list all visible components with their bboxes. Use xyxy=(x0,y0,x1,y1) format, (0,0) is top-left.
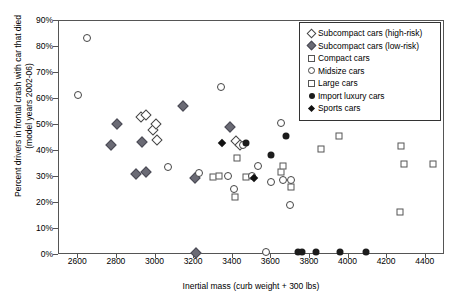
y-axis-tick-label: 90% xyxy=(0,15,53,25)
x-axis-tick-mark xyxy=(309,254,310,258)
y-axis-title: Percent drivers in frontal crash with ca… xyxy=(13,0,35,226)
legend-item[interactable]: Large cars xyxy=(305,77,435,90)
data-point xyxy=(250,174,258,182)
data-point xyxy=(83,34,91,42)
x-axis-tick-mark xyxy=(270,254,271,258)
y-axis-tick-label: 20% xyxy=(0,197,53,207)
data-point xyxy=(277,169,284,176)
data-point xyxy=(105,139,116,150)
legend-marker-icon xyxy=(305,80,318,87)
data-point xyxy=(177,101,188,112)
legend-item[interactable]: Subcompact cars (low-risk) xyxy=(305,40,435,53)
x-axis-tick-mark xyxy=(116,254,117,258)
y-axis-tick-label: 0% xyxy=(0,249,53,259)
data-point xyxy=(152,134,163,145)
x-axis-tick-mark xyxy=(77,254,78,258)
data-point xyxy=(217,83,225,91)
data-point xyxy=(74,91,82,99)
legend-item[interactable]: Import luxury cars xyxy=(305,90,435,103)
data-point xyxy=(164,163,172,171)
data-point xyxy=(216,173,223,180)
data-point xyxy=(336,249,343,256)
data-point xyxy=(362,249,369,256)
y-axis-tick-label: 80% xyxy=(0,41,53,51)
data-point xyxy=(262,248,270,256)
x-axis-tick-mark xyxy=(386,254,387,258)
data-point xyxy=(279,162,286,169)
x-axis-title: Inertial mass (curb weight + 300 lbs) xyxy=(58,281,444,291)
data-point xyxy=(277,119,285,127)
data-point xyxy=(397,143,404,150)
data-point xyxy=(396,209,403,216)
data-point xyxy=(282,133,289,140)
legend-marker-icon xyxy=(305,55,318,62)
data-point xyxy=(268,151,275,158)
legend-marker-icon xyxy=(305,93,318,99)
data-point xyxy=(111,119,122,130)
data-point xyxy=(136,136,147,147)
legend-item-label: Midsize cars xyxy=(318,66,365,76)
data-point xyxy=(312,249,319,256)
data-point xyxy=(224,172,232,180)
legend-marker-icon xyxy=(305,30,318,37)
legend-item[interactable]: Compact cars xyxy=(305,52,435,65)
data-point xyxy=(218,139,226,147)
y-axis-tick-label: 10% xyxy=(0,223,53,233)
legend-item-label: Import luxury cars xyxy=(318,91,385,101)
legend-item[interactable]: Sports cars xyxy=(305,102,435,115)
data-point xyxy=(267,178,275,186)
y-axis-tick-label: 50% xyxy=(0,119,53,129)
legend-item[interactable]: Midsize cars xyxy=(305,65,435,78)
legend-item-label: Subcompact cars (low-risk) xyxy=(318,41,419,51)
data-point xyxy=(287,184,294,191)
data-point xyxy=(254,162,262,170)
legend-item-label: Sports cars xyxy=(318,103,360,113)
legend-item[interactable]: Subcompact cars (high-risk) xyxy=(305,27,435,40)
chart-legend: Subcompact cars (high-risk)Subcompact ca… xyxy=(299,22,441,121)
data-point xyxy=(299,249,306,256)
data-point xyxy=(195,169,203,177)
legend-item-label: Subcompact cars (high-risk) xyxy=(318,28,422,38)
data-point xyxy=(231,193,238,200)
data-point xyxy=(140,167,151,178)
legend-marker-icon xyxy=(305,42,318,49)
data-point xyxy=(233,155,240,162)
y-axis-tick-label: 40% xyxy=(0,145,53,155)
legend-item-label: Large cars xyxy=(318,78,358,88)
y-axis-tick-mark xyxy=(53,254,58,255)
data-point xyxy=(286,201,294,209)
scatter-chart-figure: Percent drivers in frontal crash with ca… xyxy=(0,0,453,301)
y-axis-tick-label: 70% xyxy=(0,67,53,77)
data-point xyxy=(430,161,437,168)
legend-marker-icon xyxy=(305,67,318,74)
data-point xyxy=(401,161,408,168)
data-point xyxy=(230,185,238,193)
data-point xyxy=(224,121,235,132)
x-axis-tick-mark xyxy=(155,254,156,258)
data-point xyxy=(131,168,142,179)
x-axis-tick-mark xyxy=(348,254,349,258)
data-point xyxy=(318,146,325,153)
legend-marker-icon xyxy=(305,106,318,111)
y-axis-tick-label: 30% xyxy=(0,171,53,181)
data-point xyxy=(287,176,295,184)
y-axis-tick-label: 60% xyxy=(0,93,53,103)
data-point xyxy=(335,132,342,139)
x-axis-tick-mark xyxy=(232,254,233,258)
legend-item-label: Compact cars xyxy=(318,53,370,63)
data-point xyxy=(243,140,250,147)
x-axis-tick-mark xyxy=(425,254,426,258)
